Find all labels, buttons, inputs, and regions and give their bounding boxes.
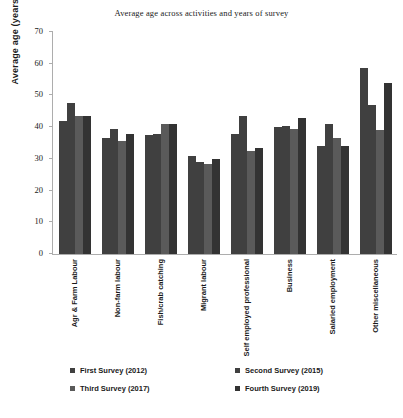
legend-swatch-icon (235, 368, 240, 373)
bar-group (354, 32, 397, 254)
bar (59, 121, 67, 254)
chart-legend: First Survey (2012)Second Survey (2015)T… (70, 366, 390, 393)
bar (118, 141, 126, 254)
x-axis-category-label: Agr & Farm Labour (69, 259, 78, 327)
bar (376, 130, 384, 254)
x-axis-category-label: Business (285, 259, 294, 292)
x-label-cell: Self employed professional (225, 257, 268, 357)
x-axis-category-label: Other miscellaneous (371, 259, 380, 333)
bar (255, 148, 263, 254)
bar (212, 159, 220, 254)
x-label-cell: Non-farm labour (95, 257, 138, 357)
x-axis-category-label: Salaried employment (328, 259, 337, 334)
bar-group (139, 32, 182, 254)
bar (274, 127, 282, 254)
bar (231, 134, 239, 255)
bar-group (311, 32, 354, 254)
plot-area: 706050403020100 (52, 32, 397, 255)
bar (169, 124, 177, 254)
bar (333, 138, 341, 254)
y-tick-label: 50 (35, 89, 44, 99)
x-axis-category-label: Self employed professional (242, 259, 251, 357)
x-label-cell: Migrant labour (181, 257, 224, 357)
bar-group (182, 32, 225, 254)
bar (126, 134, 134, 255)
bar-group (53, 32, 96, 254)
y-tick-label: 40 (35, 121, 44, 131)
bar (360, 68, 368, 254)
bar (239, 116, 247, 254)
legend-item[interactable]: Fourth Survey (2019) (235, 384, 390, 393)
x-axis-labels: Agr & Farm LabourNon-farm labourFish/cra… (52, 257, 397, 357)
y-tick-label: 10 (35, 216, 44, 226)
bar (290, 129, 298, 254)
legend-swatch-icon (235, 386, 240, 391)
legend-label: Fourth Survey (2019) (245, 384, 320, 393)
legend-label: Second Survey (2015) (245, 366, 323, 375)
bar-group (96, 32, 139, 254)
bar (161, 124, 169, 254)
bar (196, 162, 204, 254)
x-label-cell: Agr & Farm Labour (52, 257, 95, 357)
bar (384, 83, 392, 254)
x-label-cell: Business (268, 257, 311, 357)
y-tick-label: 20 (35, 185, 44, 195)
bar (298, 118, 306, 254)
bar-group (225, 32, 268, 254)
bar (83, 116, 91, 254)
bar-group (268, 32, 311, 254)
bar (153, 134, 161, 255)
x-label-cell: Other miscellaneous (354, 257, 397, 357)
legend-swatch-icon (70, 386, 75, 391)
legend-item[interactable]: First Survey (2012) (70, 366, 225, 375)
bar-groups (53, 32, 397, 254)
x-axis-category-label: Fish/crab catching (155, 259, 164, 325)
y-tick-label: 70 (35, 26, 44, 36)
bar (102, 138, 110, 254)
bar (282, 126, 290, 254)
bar (317, 146, 325, 254)
bar (368, 105, 376, 254)
y-axis-title: Average age (years) (10, 0, 20, 95)
legend-label: First Survey (2012) (80, 366, 147, 375)
x-label-cell: Fish/crab catching (138, 257, 181, 357)
legend-swatch-icon (70, 368, 75, 373)
y-tick-label: 0 (39, 248, 43, 258)
bar (341, 146, 349, 254)
x-axis-category-label: Non-farm labour (112, 259, 121, 317)
y-tick-label: 30 (35, 153, 44, 163)
bar (204, 164, 212, 254)
x-axis-category-label: Migrant labour (198, 259, 207, 311)
x-label-cell: Salaried employment (311, 257, 354, 357)
bar (188, 156, 196, 254)
legend-item[interactable]: Second Survey (2015) (235, 366, 390, 375)
legend-item[interactable]: Third Survey (2017) (70, 384, 225, 393)
bar-chart: Average age across activities and years … (0, 0, 403, 418)
chart-title: Average age across activities and years … (0, 8, 403, 18)
bar (145, 135, 153, 254)
y-tick-label: 60 (35, 58, 44, 68)
bar (67, 103, 75, 254)
bar (110, 129, 118, 254)
bar (247, 151, 255, 254)
bar (325, 124, 333, 254)
bar (75, 116, 83, 254)
legend-label: Third Survey (2017) (80, 384, 150, 393)
